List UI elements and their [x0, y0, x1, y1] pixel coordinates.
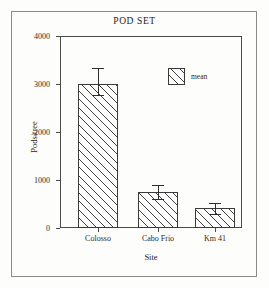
errorbar-cap-upper-km-41 [209, 203, 221, 204]
errorbar-line-colosso [98, 68, 99, 95]
y-tick-label-1000: 1000 [16, 176, 50, 185]
errorbar-line-km-41 [215, 203, 216, 214]
y-tick-label-3000: 3000 [16, 80, 50, 89]
y-tick-label-0: 0 [16, 224, 50, 233]
plot-area: mean [60, 36, 242, 228]
errorbar-cap-lower-km-41 [209, 214, 221, 215]
legend-label-mean: mean [191, 72, 207, 81]
chart-title: POD SET [0, 16, 269, 26]
errorbar-cap-upper-cabo-frio [152, 185, 164, 186]
y-tick-mark-0 [56, 228, 60, 229]
errorbar-line-cabo-frio [158, 185, 159, 199]
figure: POD SET Pods/tree Site 4000 3000 2000 10… [0, 0, 269, 288]
legend: mean [168, 68, 207, 85]
x-tick-label-colosso: Colosso [85, 234, 111, 243]
legend-swatch-mean [168, 68, 185, 85]
errorbar-cap-lower-cabo-frio [152, 199, 164, 200]
x-axis-label: Site [60, 252, 242, 262]
x-tick-label-cabo-frio: Cabo Frio [142, 234, 174, 243]
x-tick-mark-km-41 [215, 228, 216, 232]
y-tick-label-4000: 4000 [16, 32, 50, 41]
y-axis-label: Pods/tree [29, 97, 39, 177]
x-tick-mark-colosso [98, 228, 99, 232]
x-tick-label-km-41: Km 41 [204, 234, 226, 243]
errorbar-cap-upper-colosso [92, 68, 104, 69]
bar-colosso [78, 84, 118, 228]
y-tick-label-2000: 2000 [16, 128, 50, 137]
x-tick-mark-cabo-frio [158, 228, 159, 232]
errorbar-cap-lower-colosso [92, 95, 104, 96]
